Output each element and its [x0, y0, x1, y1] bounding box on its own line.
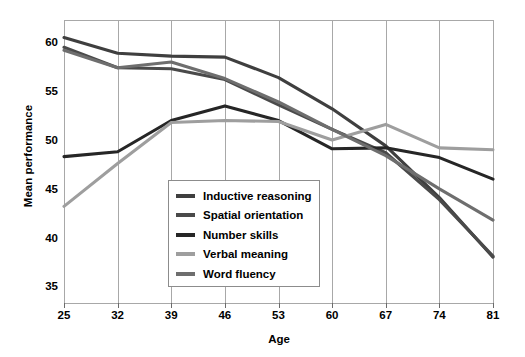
legend-item-label: Inductive reasoning — [203, 190, 312, 202]
legend-swatch-icon — [176, 213, 195, 217]
chart-legend: Inductive reasoning Spatial orientation … — [168, 180, 320, 287]
chart-plot-area — [0, 0, 525, 357]
y-tick-label: 45 — [24, 183, 58, 195]
legend-swatch-icon — [176, 194, 195, 198]
legend-swatch-icon — [176, 233, 195, 237]
legend-item: Inductive reasoning — [169, 186, 319, 206]
legend-item-label: Word fluency — [203, 268, 276, 280]
x-tick-label: 46 — [205, 309, 245, 321]
x-tick-label: 60 — [312, 309, 352, 321]
legend-swatch-icon — [176, 252, 195, 256]
y-axis-label: Mean performance — [22, 76, 34, 236]
x-tick-label: 81 — [473, 309, 513, 321]
x-tick-label: 32 — [98, 309, 138, 321]
y-tick-label: 55 — [24, 85, 58, 97]
y-tick-label: 40 — [24, 232, 58, 244]
y-tick-label: 50 — [24, 134, 58, 146]
x-tick-label: 53 — [259, 309, 299, 321]
legend-item: Word fluency — [169, 264, 319, 284]
x-tick-label: 67 — [366, 309, 406, 321]
legend-item-label: Spatial orientation — [203, 209, 303, 221]
legend-item-label: Verbal meaning — [203, 248, 288, 260]
legend-item: Verbal meaning — [169, 245, 319, 265]
x-tick-label: 39 — [151, 309, 191, 321]
legend-item-label: Number skills — [203, 229, 278, 241]
y-tick-label: 35 — [24, 280, 58, 292]
legend-swatch-icon — [176, 272, 195, 276]
x-axis-label: Age — [64, 333, 494, 345]
legend-item: Spatial orientation — [169, 206, 319, 226]
legend-item: Number skills — [169, 225, 319, 245]
chart-figure: Mean performance Age 354045505560 253239… — [0, 0, 525, 357]
x-tick-label: 25 — [44, 309, 84, 321]
y-tick-label: 60 — [24, 36, 58, 48]
x-tick-label: 74 — [419, 309, 459, 321]
